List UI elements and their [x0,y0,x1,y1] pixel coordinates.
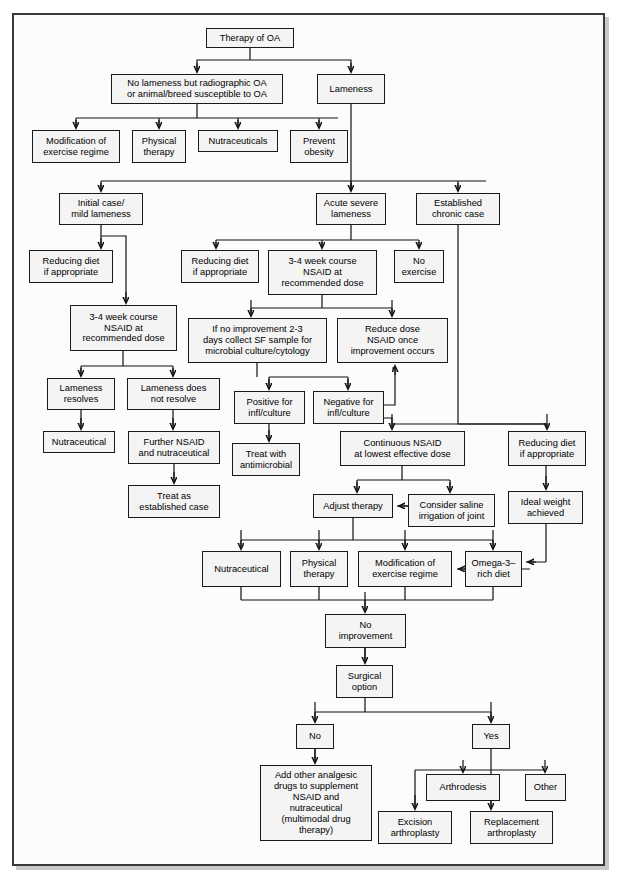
node-therapy_oa: Therapy of OA [206,28,294,48]
node-arthrodesis: Arthrodesis [426,774,500,801]
connector-11 [257,363,348,387]
node-red_diet_2: Reducing dietif appropriate [181,250,259,283]
node-no_improvement: Noimprovement [325,614,406,648]
connector-19 [526,524,546,562]
node-treat_antimicrob: Treat withantimicrobial [232,443,300,476]
connector-24 [315,698,491,720]
connector-6 [251,295,392,314]
connector-14 [384,418,547,427]
node-negative_infl: Negative forinfl/culture [313,391,384,424]
node-initial_case: Initial case/mild lameness [59,193,143,225]
node-physical_therapy_1: Physicaltherapy [132,130,186,163]
node-nsaid_course_2: 3-4 week courseNSAID atrecommended dose [268,250,377,295]
node-lameness_not: Lameness doesnot resolve [127,378,220,410]
node-no_exercise: Noexercise [394,250,444,283]
node-established: Establishedchronic case [416,193,500,225]
node-red_diet_3: Reducing dietif appropriate [508,431,586,466]
node-nsaid_course_1: 3-4 week courseNSAID atrecommended dose [70,305,177,351]
connector-22 [241,587,493,610]
node-lameness: Lameness [317,74,385,104]
node-no_improvement_sf: If no improvement 2-3days collect SF sam… [188,318,327,363]
node-lameness_resolves: Lamenessresolves [47,378,115,410]
node-no_lameness: No lameness but radiographic OAor animal… [111,74,283,104]
connector-0 [197,48,351,70]
node-positive_infl: Positive forinfl/culture [234,391,305,424]
node-mod_exercise_1: Modification ofexercise regime [32,130,120,163]
connector-1 [76,104,338,126]
flowchart-canvas: Therapy of OANo lameness but radiographi… [0,0,620,884]
node-red_diet_1: Reducing dietif appropriate [29,250,113,283]
node-nutraceuticals_1: Nutraceuticals [198,130,278,152]
node-saline_irrigation: Consider salineirrigation of joint [408,494,495,527]
node-reduce_dose: Reduce doseNSAID onceimprovement occurs [337,318,448,363]
node-omega3_diet: Omega-3–rich diet [465,551,522,587]
node-further_nsaid: Further NSAIDand nutraceutical [128,431,220,464]
node-mod_exercise_2: Modification ofexercise regime [358,551,452,587]
node-nutraceutical_2: Nutraceutical [43,431,115,453]
node-answer_no: No [296,724,334,749]
node-surgical_option: Surgicaloption [336,665,393,698]
connector-5 [216,225,419,246]
node-ideal_weight: Ideal weightachieved [508,491,583,524]
node-physical_therapy_2: Physicaltherapy [290,551,348,587]
connector-3 [101,181,486,189]
node-nutraceutical_3: Nutraceutical [202,551,281,587]
node-treat_established: Treat asestablished case [128,485,220,518]
node-add_analgesic: Add other analgesicdrugs to supplementNS… [260,765,372,841]
node-acute_severe: Acute severelameness [316,193,386,225]
node-prevent_obesity: Preventobesity [290,130,348,163]
connector-15 [458,225,547,424]
node-answer_yes: Yes [472,724,510,749]
connector-13 [384,368,395,405]
connector-16 [357,466,450,490]
node-other: Other [525,774,566,801]
node-continuous_nsaid: Continuous NSAIDat lowest effective dose [340,431,465,466]
connector-7 [81,351,173,374]
node-excision: Excisionarthroplasty [378,811,452,844]
node-adjust_therapy: Adjust therapy [313,494,393,518]
node-replacement: Replacementarthroplasty [470,811,553,844]
